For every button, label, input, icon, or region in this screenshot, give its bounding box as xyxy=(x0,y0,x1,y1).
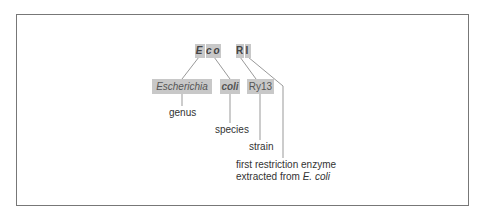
abbrev-i: I xyxy=(245,44,251,58)
genus-name-box: Escherichia xyxy=(152,79,212,94)
enzyme-label-line1: first restriction enzyme xyxy=(236,159,336,171)
strain-label: strain xyxy=(249,141,273,153)
abbrev-r: R xyxy=(236,44,244,58)
connector-lines xyxy=(0,0,487,221)
enzyme-label-organism: E. coli xyxy=(303,171,330,182)
genus-label: genus xyxy=(169,107,196,119)
species-name-box: coli xyxy=(220,79,240,94)
enzyme-label-line2: extracted from E. coli xyxy=(236,171,330,183)
species-label: species xyxy=(215,124,249,136)
enzyme-label-prefix: extracted from xyxy=(236,171,303,182)
strain-name-box: Ry13 xyxy=(247,79,274,94)
abbrev-e: E xyxy=(195,44,205,58)
abbrev-co: co xyxy=(206,44,221,58)
